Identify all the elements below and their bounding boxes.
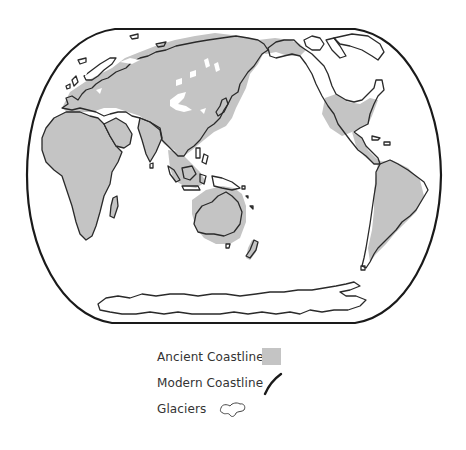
- antarctica: [98, 282, 366, 314]
- legend-label: Modern Coastline: [157, 376, 263, 390]
- arctic-archipelago: [304, 36, 346, 58]
- tierra-del-fuego: [361, 266, 365, 270]
- glacier-blob-icon: [218, 400, 248, 420]
- coastline-line-icon: [262, 371, 284, 397]
- legend-item-glaciers: Glaciers: [157, 396, 357, 422]
- legend-label: Glaciers: [157, 402, 206, 416]
- gray-square-swatch-icon: [262, 348, 281, 365]
- tasmania: [226, 244, 230, 248]
- british-isles: [66, 76, 78, 89]
- iceland: [78, 58, 86, 64]
- legend-item-modern-coastline: Modern Coastline: [157, 370, 357, 396]
- philippines: [196, 148, 208, 164]
- madagascar: [110, 196, 118, 218]
- world-map: [0, 0, 466, 335]
- map-legend: Ancient Coastline Modern Coastline Glaci…: [157, 344, 357, 422]
- sri-lanka: [150, 163, 153, 168]
- legend-item-ancient-coastline: Ancient Coastline: [157, 344, 357, 370]
- legend-label: Ancient Coastline: [157, 350, 264, 364]
- caribbean-islands: [372, 136, 390, 145]
- greenland: [334, 34, 384, 60]
